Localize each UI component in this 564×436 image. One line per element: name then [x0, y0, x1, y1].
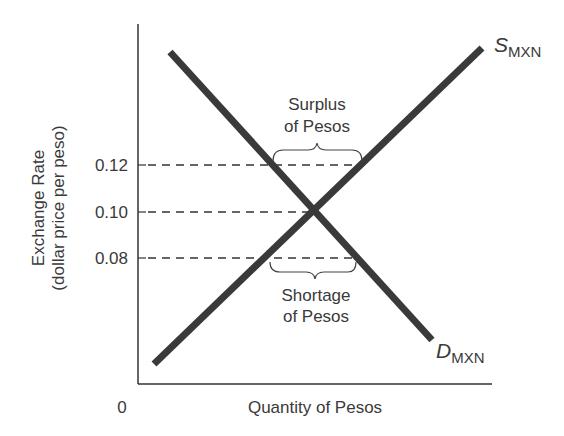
y-axis-label: Exchange Rate	[29, 150, 48, 266]
y-tick-label-012: 0.12	[95, 156, 128, 175]
y-axis-sublabel: (dollar price per peso)	[49, 125, 68, 290]
demand-label: DMXN	[436, 339, 485, 366]
origin-label: 0	[117, 398, 126, 417]
surplus-brace	[273, 143, 362, 161]
y-tick-label-008: 0.08	[95, 249, 128, 268]
shortage-brace	[270, 262, 356, 279]
exchange-rate-chart: 0.12 0.10 0.08 Exchange Rate (dollar pri…	[0, 0, 564, 436]
x-axis-label: Quantity of Pesos	[248, 398, 382, 417]
y-tick-label-010: 0.10	[95, 203, 128, 222]
supply-label: SMXN	[494, 33, 541, 60]
surplus-label-line2: of Pesos	[284, 117, 350, 136]
shortage-label-line2: of Pesos	[283, 307, 349, 326]
shortage-label-line1: Shortage	[282, 286, 351, 305]
surplus-label-line1: Surplus	[288, 95, 346, 114]
